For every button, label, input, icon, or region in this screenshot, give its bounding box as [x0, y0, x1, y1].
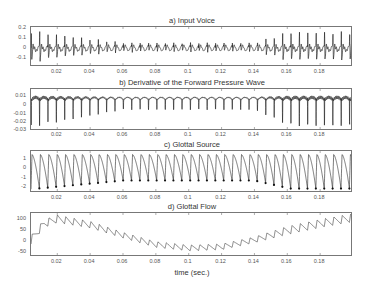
ytick-b-0: 0.01: [2, 92, 26, 98]
xtick-b-7: 0.16: [281, 131, 292, 137]
closure-marker: [72, 184, 74, 186]
ytick-a-2: 0: [2, 44, 26, 50]
closure-marker: [164, 179, 166, 181]
xtick-c-6: 0.14: [248, 194, 259, 200]
closure-marker: [97, 182, 99, 184]
closure-marker: [47, 187, 49, 189]
ytick-c-1: 0: [2, 164, 26, 170]
ytick-d-3: -50: [2, 248, 26, 254]
ytick-b-1: 0: [2, 101, 26, 107]
ytick-d-2: 0: [2, 237, 26, 243]
ytick-b-2: -0.01: [2, 110, 26, 116]
xtick-a-7: 0.16: [281, 68, 292, 74]
ytick-d-0: 100: [2, 215, 26, 221]
closure-marker: [197, 179, 199, 181]
ytick-b-4: -0.03: [2, 126, 26, 132]
closure-marker: [114, 180, 116, 182]
xtick-d-3: 0.08: [149, 258, 160, 264]
plot-svg: [31, 27, 351, 65]
xtick-b-6: 0.14: [248, 131, 259, 137]
xtick-b-4: 0.1: [184, 131, 192, 137]
closure-marker: [348, 188, 350, 190]
xtick-a-3: 0.08: [149, 68, 160, 74]
panel-a-title: a) Input Voice: [169, 16, 215, 25]
closure-marker: [206, 179, 208, 181]
plot-svg: [31, 213, 351, 255]
closure-marker: [189, 179, 191, 181]
xtick-c-1: 0.04: [84, 194, 95, 200]
closure-marker: [332, 188, 334, 190]
xtick-b-0: 0.02: [51, 131, 62, 137]
xtick-d-7: 0.16: [281, 258, 292, 264]
ytick-b-3: -0.02: [2, 118, 26, 124]
xtick-d-0: 0.02: [51, 258, 62, 264]
xtick-d-6: 0.14: [248, 258, 259, 264]
ytick-a-1: 0.1: [2, 34, 26, 40]
xtick-b-3: 0.08: [149, 131, 160, 137]
ytick-c-0: 1: [2, 155, 26, 161]
plot-svg: [31, 151, 351, 191]
xtick-a-0: 0.02: [51, 68, 62, 74]
closure-marker: [38, 187, 40, 189]
closure-marker: [256, 180, 258, 182]
xtick-a-2: 0.06: [117, 68, 128, 74]
closure-marker: [223, 179, 225, 181]
closure-marker: [340, 188, 342, 190]
xtick-b-1: 0.04: [84, 131, 95, 137]
closure-marker: [80, 183, 82, 185]
plot-glottal-flow: [30, 212, 352, 256]
ytick-d-1: 50: [2, 226, 26, 232]
xtick-c-5: 0.12: [215, 194, 226, 200]
xtick-d-8: 0.18: [314, 258, 325, 264]
closure-marker: [156, 179, 158, 181]
closure-marker: [323, 188, 325, 190]
xtick-b-5: 0.12: [215, 131, 226, 137]
closure-marker: [139, 179, 141, 181]
closure-marker: [231, 179, 233, 181]
plot-svg: [31, 89, 351, 129]
xtick-c-8: 0.18: [314, 194, 325, 200]
plot-glottal-source: [30, 150, 352, 192]
ytick-c-3: -2: [2, 183, 26, 189]
closure-marker: [130, 179, 132, 181]
x-axis-label: time (sec.): [174, 268, 209, 277]
panel-b-title: b) Derivative of the Forward Pressure Wa…: [119, 78, 265, 87]
closure-marker: [89, 183, 91, 185]
xtick-a-6: 0.14: [248, 68, 259, 74]
panel-c-title: c) Glottal Source: [164, 140, 220, 149]
xtick-a-1: 0.04: [84, 68, 95, 74]
xtick-a-8: 0.18: [314, 68, 325, 74]
ytick-a-0: 0.2: [2, 24, 26, 30]
closure-marker: [264, 182, 266, 184]
xtick-b-2: 0.06: [117, 131, 128, 137]
xtick-c-3: 0.08: [149, 194, 160, 200]
xtick-a-4: 0.1: [184, 68, 192, 74]
closure-marker: [290, 188, 292, 190]
closure-marker: [147, 179, 149, 181]
closure-marker: [315, 188, 317, 190]
closure-marker: [172, 179, 174, 181]
closure-marker: [63, 185, 65, 187]
closure-marker: [105, 181, 107, 183]
xtick-d-4: 0.1: [184, 258, 192, 264]
xtick-b-8: 0.18: [314, 131, 325, 137]
ytick-c-2: -1: [2, 174, 26, 180]
xtick-c-4: 0.1: [184, 194, 192, 200]
xtick-c-7: 0.16: [281, 194, 292, 200]
closure-marker: [122, 179, 124, 181]
closure-marker: [239, 179, 241, 181]
xtick-a-5: 0.12: [215, 68, 226, 74]
ytick-a-3: -0.1: [2, 54, 26, 60]
closure-marker: [298, 188, 300, 190]
closure-marker: [248, 179, 250, 181]
xtick-d-5: 0.12: [215, 258, 226, 264]
closure-marker: [306, 188, 308, 190]
xtick-c-2: 0.06: [117, 194, 128, 200]
closure-marker: [55, 186, 57, 188]
panel-d-title: d) Glottal Flow: [168, 202, 216, 211]
closure-marker: [273, 184, 275, 186]
xtick-c-0: 0.02: [51, 194, 62, 200]
closure-marker: [181, 179, 183, 181]
plot-derivative-forward-pressure: [30, 88, 352, 130]
xtick-d-2: 0.06: [117, 258, 128, 264]
